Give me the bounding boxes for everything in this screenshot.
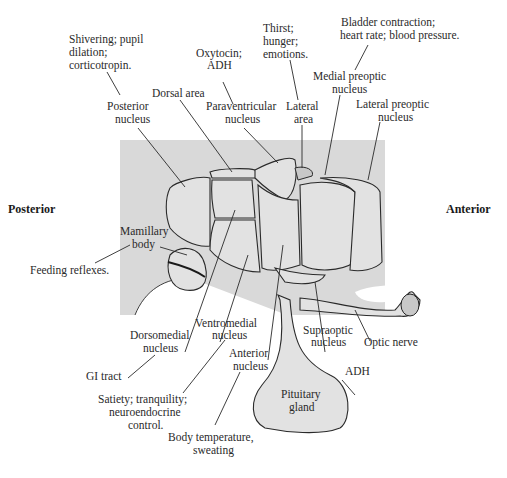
label-lateral-area-function: Thirst; hunger; emotions.	[263, 22, 308, 60]
dorsal-area-shape	[210, 169, 258, 178]
label-posterior-nucleus-function: Shivering; pupil dilation; corticotropin…	[69, 33, 143, 72]
svg-text:nucleus: nucleus	[378, 111, 414, 123]
svg-text:Shivering; pupil: Shivering; pupil	[69, 33, 143, 46]
svg-text:ADH: ADH	[207, 59, 232, 71]
label-supraoptic-function: ADH	[345, 365, 370, 377]
label-lateral-preoptic-nucleus: Lateral preoptic nucleus	[356, 98, 429, 123]
label-paraventricular-nucleus: Paraventricular nucleus	[206, 100, 276, 125]
svg-text:Anterior: Anterior	[229, 347, 268, 359]
svg-text:Thirst;: Thirst;	[263, 22, 294, 34]
svg-text:heart rate; blood pressure.: heart rate; blood pressure.	[340, 29, 460, 42]
label-dorsomedial-nucleus: Dorsomedial nucleus	[130, 329, 189, 354]
label-paraventricular-function: Oxytocin; ADH	[196, 47, 242, 71]
dorsomedial-shape	[212, 180, 255, 218]
anterior-label: Anterior	[446, 202, 491, 216]
mamillary-body	[168, 248, 206, 290]
posterior-label: Posterior	[8, 202, 56, 216]
svg-text:body: body	[132, 238, 155, 251]
svg-text:Body temperature,: Body temperature,	[168, 431, 254, 444]
svg-text:Lateral: Lateral	[286, 100, 319, 112]
svg-text:Pituitary: Pituitary	[281, 388, 321, 401]
svg-text:control.: control.	[128, 419, 164, 431]
label-lateral-area: Lateral area	[286, 100, 319, 125]
label-anterior-nucleus: Anterior nucleus	[229, 347, 269, 372]
svg-text:Paraventricular: Paraventricular	[206, 100, 276, 112]
svg-text:nucleus: nucleus	[332, 83, 368, 95]
label-medial-preoptic-nucleus: Medial preoptic nucleus	[313, 70, 386, 95]
svg-text:Posterior: Posterior	[107, 100, 149, 112]
svg-text:nucleus: nucleus	[143, 342, 179, 354]
label-ventromedial-function: Satiety; tranquility; neuroendocrine con…	[98, 393, 187, 431]
label-dorsomedial-function: GI tract	[86, 370, 122, 382]
svg-text:nucleus: nucleus	[233, 360, 269, 372]
svg-text:Mamillary: Mamillary	[120, 225, 169, 238]
svg-text:Ventromedial: Ventromedial	[195, 317, 257, 329]
label-mamillary-function: Feeding reflexes.	[30, 264, 109, 277]
label-anterior-function: Body temperature, sweating	[168, 431, 254, 457]
svg-text:emotions.: emotions.	[263, 48, 308, 60]
svg-text:Lateral preoptic: Lateral preoptic	[356, 98, 429, 111]
svg-text:corticotropin.: corticotropin.	[69, 59, 131, 72]
svg-text:gland: gland	[289, 401, 315, 414]
svg-text:Dorsomedial: Dorsomedial	[130, 329, 189, 341]
svg-text:area: area	[294, 113, 313, 125]
svg-text:nucleus: nucleus	[225, 113, 261, 125]
svg-text:nucleus: nucleus	[212, 329, 248, 341]
svg-text:dilation;: dilation;	[69, 46, 107, 58]
label-dorsal-area: Dorsal area	[152, 87, 205, 99]
svg-text:neuroendocrine: neuroendocrine	[109, 406, 181, 418]
label-supraoptic-nucleus: Supraoptic nucleus	[303, 324, 353, 348]
label-optic-nerve: Optic nerve	[364, 336, 418, 349]
svg-text:Bladder contraction;: Bladder contraction;	[341, 16, 435, 28]
svg-text:nucleus: nucleus	[311, 336, 347, 348]
svg-text:nucleus: nucleus	[115, 113, 151, 125]
svg-text:sweating: sweating	[193, 444, 234, 457]
label-posterior-nucleus: Posterior nucleus	[107, 100, 151, 125]
svg-text:Satiety; tranquility;: Satiety; tranquility;	[98, 393, 187, 406]
label-medial-preoptic-function: Bladder contraction; heart rate; blood p…	[340, 16, 460, 42]
medial-preoptic-shape	[300, 182, 355, 270]
hypothalamus-diagram: Posterior Anterior Shivering; pupil dila…	[0, 0, 507, 478]
svg-text:Medial preoptic: Medial preoptic	[313, 70, 386, 83]
svg-text:hunger;: hunger;	[263, 35, 298, 48]
